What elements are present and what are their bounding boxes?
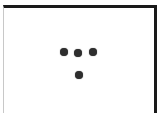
dot-top-center [74, 49, 82, 57]
panel-frame [3, 5, 157, 113]
dot-top-right [89, 48, 97, 56]
dot-top-left [60, 48, 68, 56]
dot-bottom-center [75, 71, 83, 79]
